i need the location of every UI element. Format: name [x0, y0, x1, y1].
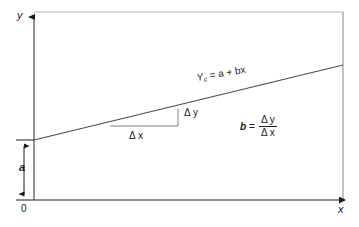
origin-label: 0: [21, 204, 27, 214]
figure-canvas: [0, 0, 359, 227]
slope-formula-equals: =: [249, 122, 255, 132]
slope-formula-lhs: b: [240, 122, 246, 132]
slope-triangle: [110, 109, 178, 126]
intercept-label: a: [19, 162, 25, 173]
equation-subscript: c: [203, 75, 208, 82]
slope-formula-numerator: Δ y: [259, 115, 277, 126]
regression-line-figure: y x 0 a Yc= a + bx Δ y Δ x b = Δ y Δ x: [0, 0, 359, 227]
regression-line: [34, 65, 343, 140]
figure-frame: [34, 12, 343, 200]
delta-x-label: Δ x: [129, 131, 143, 141]
x-axis-label: x: [338, 204, 344, 215]
delta-y-label: Δ y: [184, 108, 198, 118]
slope-formula: b = Δ y Δ x: [240, 115, 277, 138]
slope-formula-fraction: Δ y Δ x: [259, 115, 277, 138]
y-axis-label: y: [17, 10, 23, 21]
slope-formula-denominator: Δ x: [259, 126, 277, 138]
